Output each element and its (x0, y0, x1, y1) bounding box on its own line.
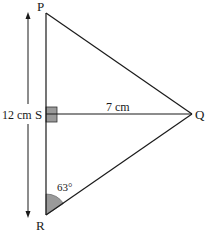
length-label-pr: 12 cm (2, 108, 32, 122)
angle-label-r: 63° (57, 181, 72, 193)
point-label-R: R (36, 218, 45, 232)
triangle-diagram: P Q R S 12 cm 7 cm 63° (0, 0, 208, 232)
side-PQ (46, 13, 192, 114)
point-label-P: P (37, 0, 44, 14)
point-label-Q: Q (195, 107, 205, 122)
length-label-sq: 7 cm (106, 100, 130, 114)
point-label-S: S (35, 107, 42, 122)
side-RQ (46, 114, 192, 215)
